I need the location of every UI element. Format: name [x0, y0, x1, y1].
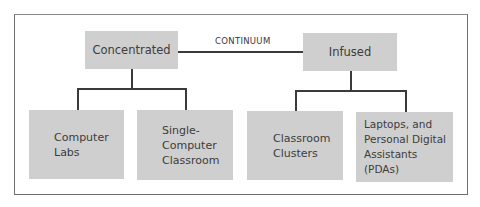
- connector-concentrated-bar: [77, 88, 186, 90]
- continuum-label: CONTINUUM: [215, 36, 271, 46]
- node-computer-labs-label: Computer Labs: [54, 130, 109, 160]
- connector-computer-labs: [77, 88, 79, 110]
- node-classroom-clusters-label: Classroom Clusters: [273, 131, 330, 161]
- node-classroom-clusters: Classroom Clusters: [247, 111, 343, 180]
- connector-concentrated-stem: [131, 69, 133, 89]
- node-laptops-pdas-label: Laptops, and Personal Digital Assistants…: [364, 117, 453, 177]
- node-infused-label: Infused: [329, 45, 371, 60]
- connector-laptops-pdas: [405, 90, 407, 112]
- connector-infused-stem: [350, 71, 352, 91]
- node-concentrated-label: Concentrated: [92, 43, 170, 58]
- continuum-line: [178, 51, 303, 53]
- node-laptops-pdas: Laptops, and Personal Digital Assistants…: [356, 112, 453, 182]
- node-single-computer-classroom: Single- Computer Classroom: [137, 110, 233, 180]
- node-concentrated: Concentrated: [85, 31, 178, 69]
- connector-infused-bar: [295, 90, 406, 92]
- node-infused: Infused: [303, 33, 397, 71]
- node-single-computer-classroom-label: Single- Computer Classroom: [162, 123, 219, 168]
- node-computer-labs: Computer Labs: [29, 110, 124, 179]
- connector-classroom-clusters: [295, 90, 297, 111]
- connector-single-computer: [185, 88, 187, 110]
